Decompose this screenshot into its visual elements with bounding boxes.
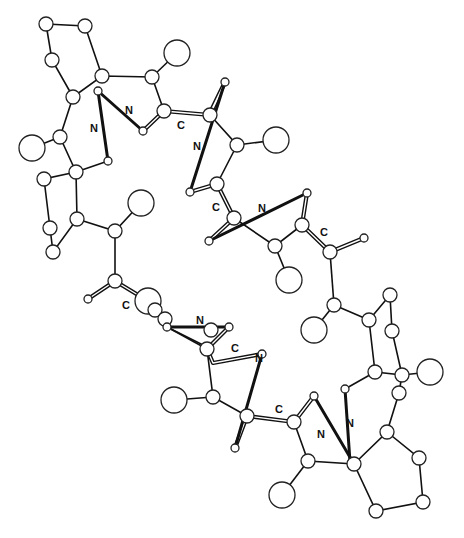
label-n: N (193, 140, 201, 152)
carbon-atom (240, 409, 254, 423)
carbon-atom (227, 211, 241, 225)
label-n: N (346, 417, 354, 429)
hydrogen-atom (310, 392, 318, 400)
carbon-atom (301, 454, 315, 468)
carbon-atom (39, 17, 53, 31)
carbon-atom (108, 274, 122, 288)
oxygen-atom (161, 387, 187, 413)
carbon-atom (37, 172, 51, 186)
molecular-structure-diagram: N N C N C N C C N C N C N N (0, 0, 464, 538)
carbon-atom (268, 239, 282, 253)
carbon-atom (412, 451, 426, 465)
oxygen-atom (269, 482, 295, 508)
label-n: N (90, 122, 98, 134)
carbon-atom (383, 288, 397, 302)
carbon-atom (295, 218, 309, 232)
carbon-atom (347, 457, 361, 471)
hydrogen-atom (360, 234, 368, 242)
oxygen-atom (19, 135, 45, 161)
carbon-atom (45, 53, 59, 67)
carbon-atom (210, 177, 224, 191)
label-c: C (122, 299, 130, 311)
hydrogen-atom (231, 444, 239, 452)
hydrogen-atom (104, 157, 112, 165)
oxygen-atom (301, 317, 327, 343)
hydrogen-atom (84, 295, 92, 303)
oxygen-atom (417, 359, 443, 385)
carbon-atom (200, 342, 214, 356)
hydrogen-atom (341, 385, 349, 393)
hydrogen-atom (163, 323, 171, 331)
oxygen-atom (276, 267, 302, 293)
carbon-atom (380, 425, 394, 439)
label-n: N (255, 352, 263, 364)
carbon-atom (395, 368, 409, 382)
carbon-atom (385, 324, 399, 338)
atom-labels: N N C N C N C C N C N C N N (90, 104, 354, 440)
carbon-atom (392, 386, 406, 400)
label-c: C (231, 342, 239, 354)
label-n: N (317, 428, 325, 440)
carbon-atom (206, 390, 220, 404)
carbon-atom (203, 108, 217, 122)
carbon-atom (157, 104, 171, 118)
hydrogen-atom (186, 188, 194, 196)
hydrogen-atom (205, 237, 213, 245)
carbon-atom (70, 212, 84, 226)
carbon-atom (66, 90, 80, 104)
carbon-atom (204, 323, 218, 337)
hydrogen-atom (225, 323, 233, 331)
carbon-atom (53, 130, 67, 144)
carbon-atom (287, 415, 301, 429)
carbon-atom (327, 298, 341, 312)
oxygen-atom (263, 127, 289, 153)
carbon-atom (230, 138, 244, 152)
carbon-atom (78, 19, 92, 33)
carbon-atom (369, 504, 383, 518)
label-n: N (125, 104, 133, 116)
label-c: C (320, 226, 328, 238)
carbon-atom (43, 221, 57, 235)
single-bonds (32, 24, 430, 511)
carbon-atom (362, 313, 376, 327)
label-c: C (212, 201, 220, 213)
label-n: N (258, 202, 266, 214)
carbon-atom (145, 70, 159, 84)
carbon-atom (69, 165, 83, 179)
carbon-atom (108, 224, 122, 238)
hydrogen-atom (221, 78, 229, 86)
hydrogen-atom (94, 87, 102, 95)
label-c: C (275, 403, 283, 415)
carbon-atom (368, 365, 382, 379)
label-n: N (196, 314, 204, 326)
carbon-atom (416, 495, 430, 509)
carbon-atom (95, 69, 109, 83)
carbon-atom (46, 245, 60, 259)
label-c: C (177, 119, 185, 131)
hydrogen-bonds (98, 82, 354, 464)
oxygen-atom (128, 190, 154, 216)
hydrogen-atom (303, 189, 311, 197)
hydrogen-atom (139, 127, 147, 135)
carbon-atom (323, 245, 337, 259)
backbone-bonds (88, 82, 364, 448)
atoms (19, 17, 443, 518)
oxygen-atom (164, 40, 190, 66)
